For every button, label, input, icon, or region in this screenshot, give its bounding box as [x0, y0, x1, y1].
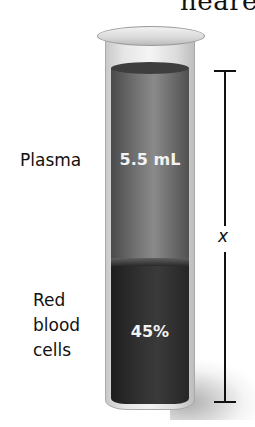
layer-boundary [111, 258, 189, 266]
rbc-value: 45% [111, 322, 189, 341]
tube-rim [97, 26, 205, 46]
rbc-label-line-2: blood [33, 313, 80, 338]
rbc-label-line-3: cells [33, 338, 71, 363]
bracket-bottom-cap [214, 401, 236, 403]
partial-heading-text: neare [180, 0, 255, 16]
plasma-surface [111, 62, 189, 74]
plasma-value: 5.5 mL [111, 150, 189, 169]
rbc-label-line-1: Red [33, 288, 65, 313]
plasma-label: Plasma [20, 148, 81, 173]
variable-x-label: x [218, 226, 228, 246]
